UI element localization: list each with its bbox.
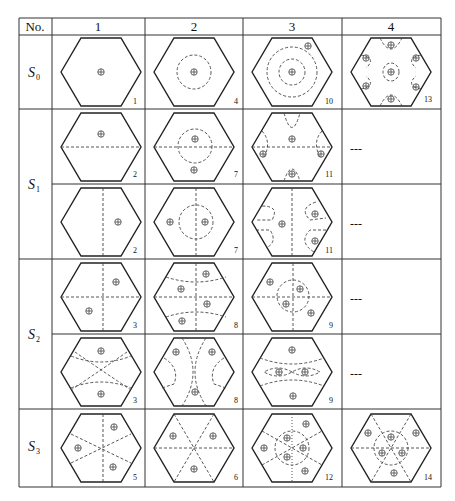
cell-s1b-1 (61, 188, 141, 256)
cell-number: 9 (329, 321, 333, 330)
cell-s1b-3 (252, 188, 332, 256)
cell-s0-2 (154, 38, 234, 106)
header-col-2: 2 (191, 19, 198, 34)
cell-number: 13 (424, 95, 432, 104)
cell-number: 9 (329, 396, 333, 405)
svg-text:S: S (28, 439, 35, 454)
cell-s2b-3 (252, 338, 332, 406)
header-no: No. (25, 19, 44, 34)
cell-s3-2 (154, 414, 234, 482)
cell-number: 6 (234, 473, 238, 482)
empty-marker: --- (350, 217, 362, 231)
row-label-s2: S 2 (28, 327, 40, 344)
cell-number: 11 (325, 246, 333, 255)
header-col-4: 4 (388, 19, 395, 34)
cell-s2b-1 (61, 338, 141, 406)
cell-s2a-2 (154, 263, 234, 331)
cell-s3-1 (61, 414, 141, 482)
row-label-s3: S 3 (28, 439, 40, 456)
cell-number: 8 (234, 396, 238, 405)
cell-s0-1 (61, 38, 141, 106)
symmetry-table: No. 1 2 3 4 S 0 S 1 S 2 S 3 1 4 (0, 0, 455, 501)
cell-s0-3 (252, 38, 332, 106)
cell-number: 12 (325, 473, 333, 482)
cell-number: 4 (234, 97, 238, 106)
cell-number: 2 (133, 246, 137, 255)
cell-s1a-1 (61, 113, 141, 181)
cell-number: 8 (234, 321, 238, 330)
cell-number: 2 (133, 170, 137, 179)
svg-text:1: 1 (36, 185, 40, 194)
row-label-s0: S 0 (28, 65, 40, 82)
empty-marker: --- (350, 142, 362, 156)
cell-s3-3 (252, 414, 332, 482)
svg-text:S: S (28, 177, 35, 192)
cell-number: 1 (133, 97, 137, 106)
cell-number: 3 (133, 396, 137, 405)
cell-s2a-1 (61, 263, 141, 331)
cell-number: 11 (325, 170, 333, 179)
cell-number: 5 (133, 473, 137, 482)
cell-s1a-3 (252, 113, 332, 181)
cell-s2b-2 (154, 338, 234, 406)
cell-number: 14 (424, 473, 432, 482)
svg-text:S: S (28, 327, 35, 342)
svg-text:3: 3 (36, 447, 40, 456)
header-col-3: 3 (289, 19, 296, 34)
header-col-1: 1 (95, 19, 102, 34)
svg-text:2: 2 (36, 335, 40, 344)
empty-marker: --- (350, 367, 362, 381)
cell-number: 3 (133, 321, 137, 330)
cell-number: 7 (234, 170, 238, 179)
empty-marker: --- (350, 292, 362, 306)
cell-s3-4 (351, 414, 431, 482)
cell-s2a-3 (252, 263, 332, 331)
cell-number: 10 (325, 97, 333, 106)
svg-text:0: 0 (36, 73, 40, 82)
cell-s1b-2 (154, 188, 234, 256)
row-label-s1: S 1 (28, 177, 40, 194)
table-grid (19, 18, 441, 487)
cell-number: 7 (234, 246, 238, 255)
svg-text:S: S (28, 65, 35, 80)
cell-s0-4 (351, 38, 431, 106)
cell-s1a-2 (154, 113, 234, 181)
